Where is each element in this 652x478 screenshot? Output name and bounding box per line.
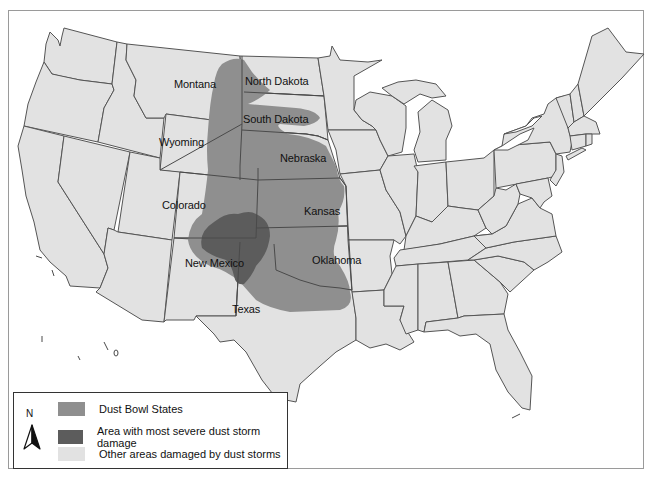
state-maine: [578, 28, 644, 116]
state-michigan-lower: [414, 100, 452, 162]
legend-label-other: Other areas damaged by dust storms: [99, 448, 281, 460]
label-south-dakota: South Dakota: [243, 113, 308, 125]
swatch-dust-bowl: [58, 402, 85, 416]
legend-item-other: Other areas damaged by dust storms: [58, 447, 281, 461]
label-kansas: Kansas: [304, 205, 340, 217]
label-north-dakota: North Dakota: [245, 75, 309, 87]
label-nebraska: Nebraska: [280, 152, 326, 164]
state-florida: [424, 314, 532, 410]
state-connecticut: [570, 134, 586, 150]
state-ohio: [446, 150, 494, 210]
label-texas: Texas: [232, 303, 260, 315]
label-new-mexico: New Mexico: [185, 257, 244, 269]
label-oklahoma: Oklahoma: [312, 254, 361, 266]
label-montana: Montana: [174, 78, 216, 90]
label-wyoming: Wyoming: [159, 136, 204, 148]
map-legend: N Dust Bowl States Area with most severe…: [13, 392, 288, 469]
legend-label-dust-bowl: Dust Bowl States: [99, 403, 183, 415]
state-rhode-island: [586, 134, 592, 146]
legend-label-severe: Area with most severe dust storm damage: [97, 425, 287, 449]
legend-item-dust-bowl: Dust Bowl States: [58, 402, 183, 416]
state-arizona: [96, 228, 172, 322]
swatch-other: [58, 447, 85, 461]
north-arrow-icon: [20, 407, 44, 455]
legend-item-severe: Area with most severe dust storm damage: [58, 425, 287, 449]
label-colorado: Colorado: [162, 199, 206, 211]
swatch-severe: [58, 430, 83, 444]
